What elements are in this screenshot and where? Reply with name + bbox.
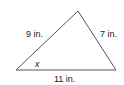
- angle-x-label: x: [34, 59, 40, 69]
- side-bottom-label: 11 in.: [54, 74, 75, 84]
- side-left-label: 9 in.: [26, 29, 43, 39]
- side-right-label: 7 in.: [100, 29, 117, 39]
- triangle: [16, 11, 116, 70]
- triangle-diagram: 9 in. 7 in. 11 in. x: [0, 0, 124, 85]
